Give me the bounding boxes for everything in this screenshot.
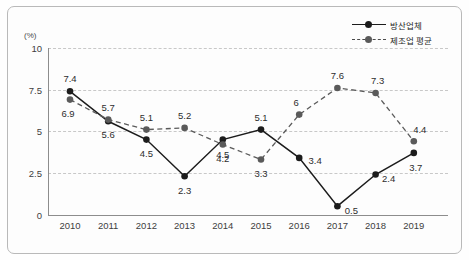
data-label: 5.1 — [140, 111, 153, 122]
data-point-marker — [296, 111, 303, 118]
legend-label-series-1: 방산업체 — [390, 19, 422, 31]
gridline — [48, 48, 448, 49]
y-axis-line — [48, 48, 49, 215]
data-label: 4.4 — [413, 124, 426, 135]
data-point-marker — [411, 138, 418, 145]
y-axis-tick-label: 2.5 — [2, 167, 42, 178]
data-label: 7.4 — [63, 73, 76, 84]
data-point-marker — [220, 136, 227, 143]
y-axis-tick-label: 7.5 — [2, 84, 42, 95]
series-line-1 — [70, 91, 414, 206]
legend-key-solid — [352, 19, 386, 31]
data-label: 5.6 — [102, 129, 115, 140]
series-line-2 — [70, 88, 414, 160]
data-label: 7.6 — [331, 69, 344, 80]
data-point-marker — [258, 156, 265, 163]
x-axis-line — [48, 215, 448, 216]
data-label: 2.3 — [178, 185, 191, 196]
data-label: 3.4 — [309, 154, 322, 165]
data-point-marker — [220, 141, 227, 148]
data-label: 7.3 — [371, 74, 384, 85]
data-point-marker — [411, 150, 418, 157]
x-axis-tick-label: 2019 — [389, 220, 439, 231]
data-label: 4.2 — [216, 152, 229, 163]
y-axis-tick-label: 10 — [2, 43, 42, 54]
data-label: 5.2 — [178, 109, 191, 120]
y-axis-tick-label: 0 — [2, 209, 42, 220]
legend-item-series-2[interactable]: 제조업 평균 — [352, 33, 452, 46]
legend-item-series-1[interactable]: 방산업체 — [352, 18, 452, 31]
legend-label-series-2: 제조업 평균 — [390, 34, 432, 46]
chart-figure: (%) 02.557.510 2010201120122013201420152… — [0, 0, 469, 260]
data-label: 5.7 — [102, 101, 115, 112]
data-point-marker — [105, 118, 112, 125]
data-label: 3.7 — [409, 161, 422, 172]
data-label: 5.1 — [254, 111, 267, 122]
data-point-marker — [296, 155, 303, 162]
data-point-marker — [67, 96, 74, 103]
data-point-marker — [372, 90, 379, 97]
legend-key-dashed — [352, 34, 386, 46]
data-label: 2.4 — [382, 172, 395, 183]
data-label: 6.9 — [61, 107, 74, 118]
data-label: 0.5 — [345, 205, 358, 216]
gridline — [48, 90, 448, 91]
data-point-marker — [334, 203, 341, 210]
data-point-marker — [181, 125, 188, 132]
y-axis-unit-label: (%) — [24, 31, 36, 40]
data-point-marker — [181, 173, 188, 180]
legend-marker-circle-icon — [365, 36, 372, 43]
data-label: 4.5 — [140, 147, 153, 158]
legend-marker-circle-icon — [365, 21, 372, 28]
data-point-marker — [105, 116, 112, 123]
chart-legend: 방산업체 제조업 평균 — [352, 18, 452, 48]
data-label: 3.3 — [254, 167, 267, 178]
y-axis-tick-label: 5 — [2, 126, 42, 137]
data-label: 6 — [294, 96, 299, 107]
data-point-marker — [143, 136, 150, 143]
